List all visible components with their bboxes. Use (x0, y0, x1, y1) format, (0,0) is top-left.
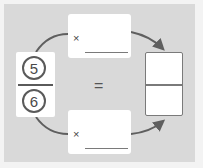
result-fraction-box[interactable] (145, 52, 183, 116)
top-right-arrow (131, 32, 162, 48)
fraction-bar (18, 84, 53, 86)
bottom-right-arrow (131, 122, 162, 134)
start-fraction-box: 5 6 (16, 52, 55, 117)
result-denominator-field[interactable] (146, 85, 182, 115)
bottom-left-arc (36, 117, 68, 134)
bottom-multiplier-blank[interactable] (85, 148, 128, 150)
denominator-circle: 6 (22, 89, 46, 113)
top-multiplier-blank[interactable] (85, 52, 128, 54)
result-numerator-field[interactable] (146, 53, 182, 83)
bottom-multiplier-box[interactable]: × (68, 110, 131, 154)
top-left-arc (36, 34, 68, 52)
times-icon: × (73, 33, 79, 44)
top-multiplier-box[interactable]: × (68, 14, 131, 58)
numerator-value: 5 (30, 61, 38, 76)
times-icon: × (73, 129, 79, 140)
denominator-value: 6 (30, 94, 38, 109)
numerator-circle: 5 (22, 56, 46, 80)
equals-sign: = (94, 78, 103, 94)
